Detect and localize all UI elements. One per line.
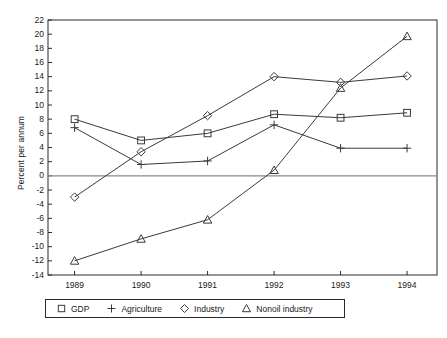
y-axis-tick-label: 22 xyxy=(6,15,44,25)
legend-item-label: Nonoil industry xyxy=(256,304,312,314)
marker-diamond xyxy=(181,305,189,313)
x-axis-tick-label: 1992 xyxy=(249,280,299,290)
x-axis-tick-label: 1990 xyxy=(116,280,166,290)
y-axis-tick-label: 8 xyxy=(6,114,44,124)
y-axis-tick-label: -14 xyxy=(6,270,44,280)
legend-square-icon xyxy=(55,303,68,314)
x-axis-tick-label: 1989 xyxy=(50,280,100,290)
marker-square xyxy=(58,305,64,311)
legend-item-label: GDP xyxy=(71,304,89,314)
y-axis-tick-label: 10 xyxy=(6,100,44,110)
y-axis-tick-label: 16 xyxy=(6,57,44,67)
y-axis-tick-label: 20 xyxy=(6,29,44,39)
y-axis-tick-label: 0 xyxy=(6,170,44,180)
x-axis-tick-label: 1993 xyxy=(316,280,366,290)
chart-legend: GDPAgricultureIndustryNonoil industry xyxy=(45,299,345,318)
legend-item-agriculture[interactable]: Agriculture xyxy=(105,303,162,314)
x-axis-tick-label: 1994 xyxy=(382,280,432,290)
y-axis-tick-label: -6 xyxy=(6,213,44,223)
legend-plus-icon xyxy=(105,303,118,314)
y-axis-tick-label: 6 xyxy=(6,128,44,138)
figure-container: Percent per annum GDPAgricultureIndustry… xyxy=(0,0,447,338)
y-axis-tick-label: -4 xyxy=(6,199,44,209)
y-axis-tick-label: 14 xyxy=(6,71,44,81)
y-axis-tick-label: 2 xyxy=(6,156,44,166)
legend-diamond-icon xyxy=(178,303,191,314)
x-axis-tick-label: 1991 xyxy=(183,280,233,290)
y-axis-tick-label: 12 xyxy=(6,85,44,95)
y-axis-tick-label: -10 xyxy=(6,241,44,251)
y-axis-tick-label: -12 xyxy=(6,255,44,265)
legend-item-nonoil-industry[interactable]: Nonoil industry xyxy=(240,303,312,314)
y-axis-tick-label: -2 xyxy=(6,185,44,195)
legend-triangle-icon xyxy=(240,303,253,314)
legend-item-industry[interactable]: Industry xyxy=(178,303,224,314)
marker-triangle xyxy=(243,305,251,312)
y-axis-tick-label: 4 xyxy=(6,142,44,152)
y-axis-tick-label: -8 xyxy=(6,227,44,237)
legend-item-label: Industry xyxy=(194,304,224,314)
legend-item-label: Agriculture xyxy=(121,304,162,314)
y-axis-tick-label: 18 xyxy=(6,43,44,53)
marker-plus xyxy=(108,305,116,313)
legend-item-gdp[interactable]: GDP xyxy=(55,303,89,314)
